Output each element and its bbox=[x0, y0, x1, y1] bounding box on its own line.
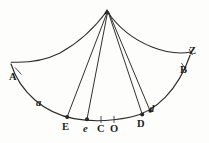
lower-arc bbox=[11, 55, 190, 121]
radial-line-apex-e bbox=[87, 12, 108, 119]
figure-canvas bbox=[0, 0, 209, 143]
radial-line-apex-E bbox=[67, 12, 107, 117]
point-label-B: B bbox=[180, 65, 187, 76]
left-cheek-curve bbox=[11, 11, 107, 62]
point-dot-e bbox=[85, 117, 89, 121]
point-label-A: A bbox=[9, 72, 17, 83]
point-label-e-italic: e bbox=[83, 124, 88, 135]
point-label-Z: Z bbox=[189, 46, 196, 57]
point-dot-D bbox=[140, 112, 144, 116]
point-label-O: O bbox=[110, 124, 118, 135]
point-label-D: D bbox=[137, 119, 145, 130]
point-label-a: a bbox=[36, 98, 41, 109]
point-label-E: E bbox=[62, 122, 69, 133]
radial-line-apex-D bbox=[108, 12, 142, 114]
point-label-C: C bbox=[97, 124, 105, 135]
point-label-d-italic: d bbox=[149, 104, 154, 115]
radial-line-apex-d bbox=[109, 12, 150, 111]
point-dot-E bbox=[65, 115, 69, 119]
geometric-figure: A B Z a d E e C O D bbox=[0, 0, 209, 143]
